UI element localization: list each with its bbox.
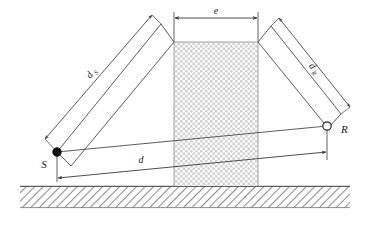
source-distance-subscript: S [92, 68, 100, 76]
receiver-point-label: R [340, 123, 348, 135]
building-block [174, 42, 258, 186]
receiver-beam [258, 26, 341, 128]
source-distance-dimension [45, 15, 161, 152]
diagram-root: e d S d R [0, 0, 370, 227]
technical-diagram-canvas: e d S d R [0, 0, 370, 227]
source-point-marker [53, 148, 61, 156]
source-distance-label-group: d S [84, 65, 101, 82]
receiver-point-marker [323, 122, 331, 130]
source-point-label: S [41, 158, 47, 170]
source-beam [57, 24, 174, 166]
ground-hatching [20, 186, 350, 208]
obstacle-width-dimension [174, 12, 258, 42]
total-distance-label: d [139, 154, 145, 165]
obstacle-width-label: e [214, 5, 219, 16]
